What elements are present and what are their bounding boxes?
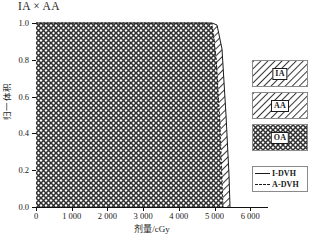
legend-row-a-dvh: A-DVH bbox=[254, 179, 307, 190]
x-tick-label-2000: 2 000 bbox=[98, 211, 117, 221]
legend-tag-ia: IA bbox=[272, 68, 287, 80]
y-tick-label-0.8: 0.8 bbox=[18, 55, 29, 65]
region-oa-fill bbox=[36, 23, 223, 207]
y-tick-label-0.0: 0.0 bbox=[18, 202, 29, 212]
solid-line-icon bbox=[255, 173, 270, 174]
y-tick-label-0.6: 0.6 bbox=[18, 92, 29, 102]
legend-swatch-oa: OA bbox=[252, 124, 308, 151]
x-axis-label: 剂量/cGy bbox=[36, 222, 268, 235]
dvh-figure: IA × AA bbox=[0, 0, 312, 239]
dashed-line-icon bbox=[255, 184, 270, 185]
y-tick-4 bbox=[32, 133, 36, 134]
x-tick-label-4000: 4 000 bbox=[169, 211, 188, 221]
legend-line-box: I-DVH A-DVH bbox=[252, 166, 308, 192]
legend-label-a-dvh: A-DVH bbox=[272, 180, 299, 189]
x-tick-label-0: 0 bbox=[34, 211, 38, 221]
legend-swatch-ia: IA bbox=[252, 60, 308, 87]
legend-tag-oa: OA bbox=[271, 132, 289, 144]
legend-swatch-aa: AA bbox=[252, 92, 308, 119]
x-tick-label-6000: 6 000 bbox=[241, 211, 260, 221]
plot-area bbox=[36, 23, 265, 207]
y-tick-3 bbox=[32, 97, 36, 98]
y-tick-label-1.0: 1.0 bbox=[18, 18, 29, 28]
y-tick-label-0.2: 0.2 bbox=[18, 165, 29, 175]
y-axis-label: 归一体积 bbox=[0, 71, 12, 131]
y-tick-2 bbox=[32, 60, 36, 61]
legend-row-i-dvh: I-DVH bbox=[254, 168, 307, 179]
y-tick-1 bbox=[32, 23, 36, 24]
x-tick-label-3000: 3 000 bbox=[134, 211, 153, 221]
area-fill-group bbox=[36, 23, 265, 207]
y-tick-5 bbox=[32, 170, 36, 171]
chart-title: IA × AA bbox=[18, 0, 60, 12]
legend-label-i-dvh: I-DVH bbox=[272, 169, 296, 178]
y-tick-label-0.4: 0.4 bbox=[18, 128, 29, 138]
x-tick-label-5000: 5 000 bbox=[205, 211, 224, 221]
x-tick-label-1000: 1 000 bbox=[62, 211, 81, 221]
legend-tag-aa: AA bbox=[271, 100, 289, 112]
